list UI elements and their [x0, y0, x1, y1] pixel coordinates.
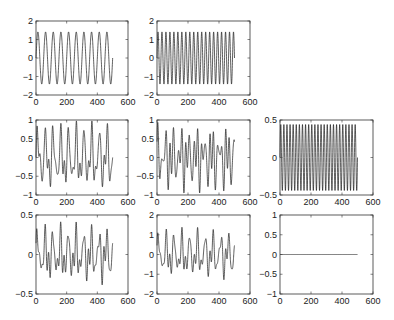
y-tick-label: −1 [23, 72, 33, 82]
y-tick-label: 1 [149, 230, 154, 240]
x-tick-label: 0 [33, 97, 38, 107]
data-line [157, 122, 235, 193]
x-tick-label: 400 [90, 296, 105, 306]
x-tick-label: 600 [120, 197, 135, 207]
x-tick-label: 400 [90, 197, 105, 207]
x-tick-label: 200 [180, 97, 195, 107]
y-tick-label: 0.5 [20, 134, 33, 144]
subplot-r2c3: 0200400600−0.500.5 [259, 115, 380, 207]
x-tick-label: 0 [33, 296, 38, 306]
y-tick-label: −1 [267, 289, 277, 299]
x-tick-label: 200 [303, 197, 318, 207]
x-tick-label: 600 [365, 296, 380, 306]
subplot-r3c2: 0200400600−2−1012 [144, 210, 258, 306]
x-tick-label: 200 [180, 296, 195, 306]
y-tick-label: −0.5 [136, 171, 154, 181]
y-tick-label: −2 [23, 90, 33, 100]
y-tick-label: 0 [149, 153, 154, 163]
x-tick-label: 0 [154, 296, 159, 306]
x-tick-label: 400 [211, 197, 226, 207]
y-tick-label: −1 [144, 190, 154, 200]
x-tick-label: 0 [33, 197, 38, 207]
data-line [36, 121, 113, 187]
y-tick-label: 0 [149, 250, 154, 260]
y-tick-label: 0 [28, 250, 33, 260]
x-tick-label: 400 [334, 197, 349, 207]
y-tick-label: −1 [144, 72, 154, 82]
y-tick-label: 0.5 [264, 115, 277, 125]
x-tick-label: 0 [277, 296, 282, 306]
y-tick-label: 0.5 [20, 210, 33, 220]
y-tick-label: −1 [144, 269, 154, 279]
y-tick-label: 1 [272, 210, 277, 220]
y-tick-label: 0 [149, 53, 154, 63]
data-line [157, 32, 235, 84]
x-tick-label: 200 [59, 296, 74, 306]
x-tick-label: 200 [59, 197, 74, 207]
subplot-r2c1: 0200400600−1−0.500.51 [15, 115, 135, 207]
x-tick-label: 0 [277, 197, 282, 207]
subplot-figure: 0200400600−2−10120200400600−2−1012020040… [0, 0, 394, 320]
y-tick-label: 0 [272, 153, 277, 163]
data-line [36, 222, 113, 285]
x-tick-label: 0 [154, 97, 159, 107]
y-tick-label: −1 [23, 190, 33, 200]
y-tick-label: 1 [149, 115, 154, 125]
y-tick-label: 0.5 [141, 134, 154, 144]
x-tick-label: 0 [154, 197, 159, 207]
y-tick-label: 1 [28, 35, 33, 45]
y-tick-label: 2 [149, 210, 154, 220]
y-tick-label: 0 [272, 250, 277, 260]
y-tick-label: 2 [28, 16, 33, 26]
subplot-r1c1: 0200400600−2−1012 [23, 16, 136, 107]
x-tick-label: 200 [59, 97, 74, 107]
y-tick-label: −0.5 [15, 171, 33, 181]
x-tick-label: 200 [180, 197, 195, 207]
y-tick-label: −0.5 [15, 289, 33, 299]
data-line [36, 32, 113, 84]
y-tick-label: 0 [28, 153, 33, 163]
x-tick-label: 400 [90, 97, 105, 107]
x-tick-label: 200 [303, 296, 318, 306]
data-line [157, 227, 235, 280]
y-tick-label: −2 [144, 289, 154, 299]
x-tick-label: 600 [120, 97, 135, 107]
y-tick-label: −0.5 [259, 269, 277, 279]
subplot-r3c3: 0200400600−1−0.500.51 [259, 210, 380, 306]
y-tick-label: 0 [28, 53, 33, 63]
x-tick-label: 600 [242, 197, 257, 207]
x-tick-label: 600 [242, 97, 257, 107]
x-tick-label: 600 [242, 296, 257, 306]
y-tick-label: 0.5 [264, 230, 277, 240]
subplot-r3c1: 0200400600−0.500.5 [15, 210, 135, 306]
x-tick-label: 400 [211, 296, 226, 306]
y-tick-label: 2 [149, 16, 154, 26]
subplot-r1c2: 0200400600−2−1012 [144, 16, 258, 107]
y-tick-label: −0.5 [259, 190, 277, 200]
x-tick-label: 600 [365, 197, 380, 207]
subplot-r2c2: 0200400600−1−0.500.51 [136, 115, 257, 207]
data-line [280, 125, 358, 191]
y-tick-label: 1 [28, 115, 33, 125]
y-tick-label: −2 [144, 90, 154, 100]
x-tick-label: 400 [334, 296, 349, 306]
y-tick-label: 1 [149, 35, 154, 45]
x-tick-label: 400 [211, 97, 226, 107]
x-tick-label: 600 [120, 296, 135, 306]
